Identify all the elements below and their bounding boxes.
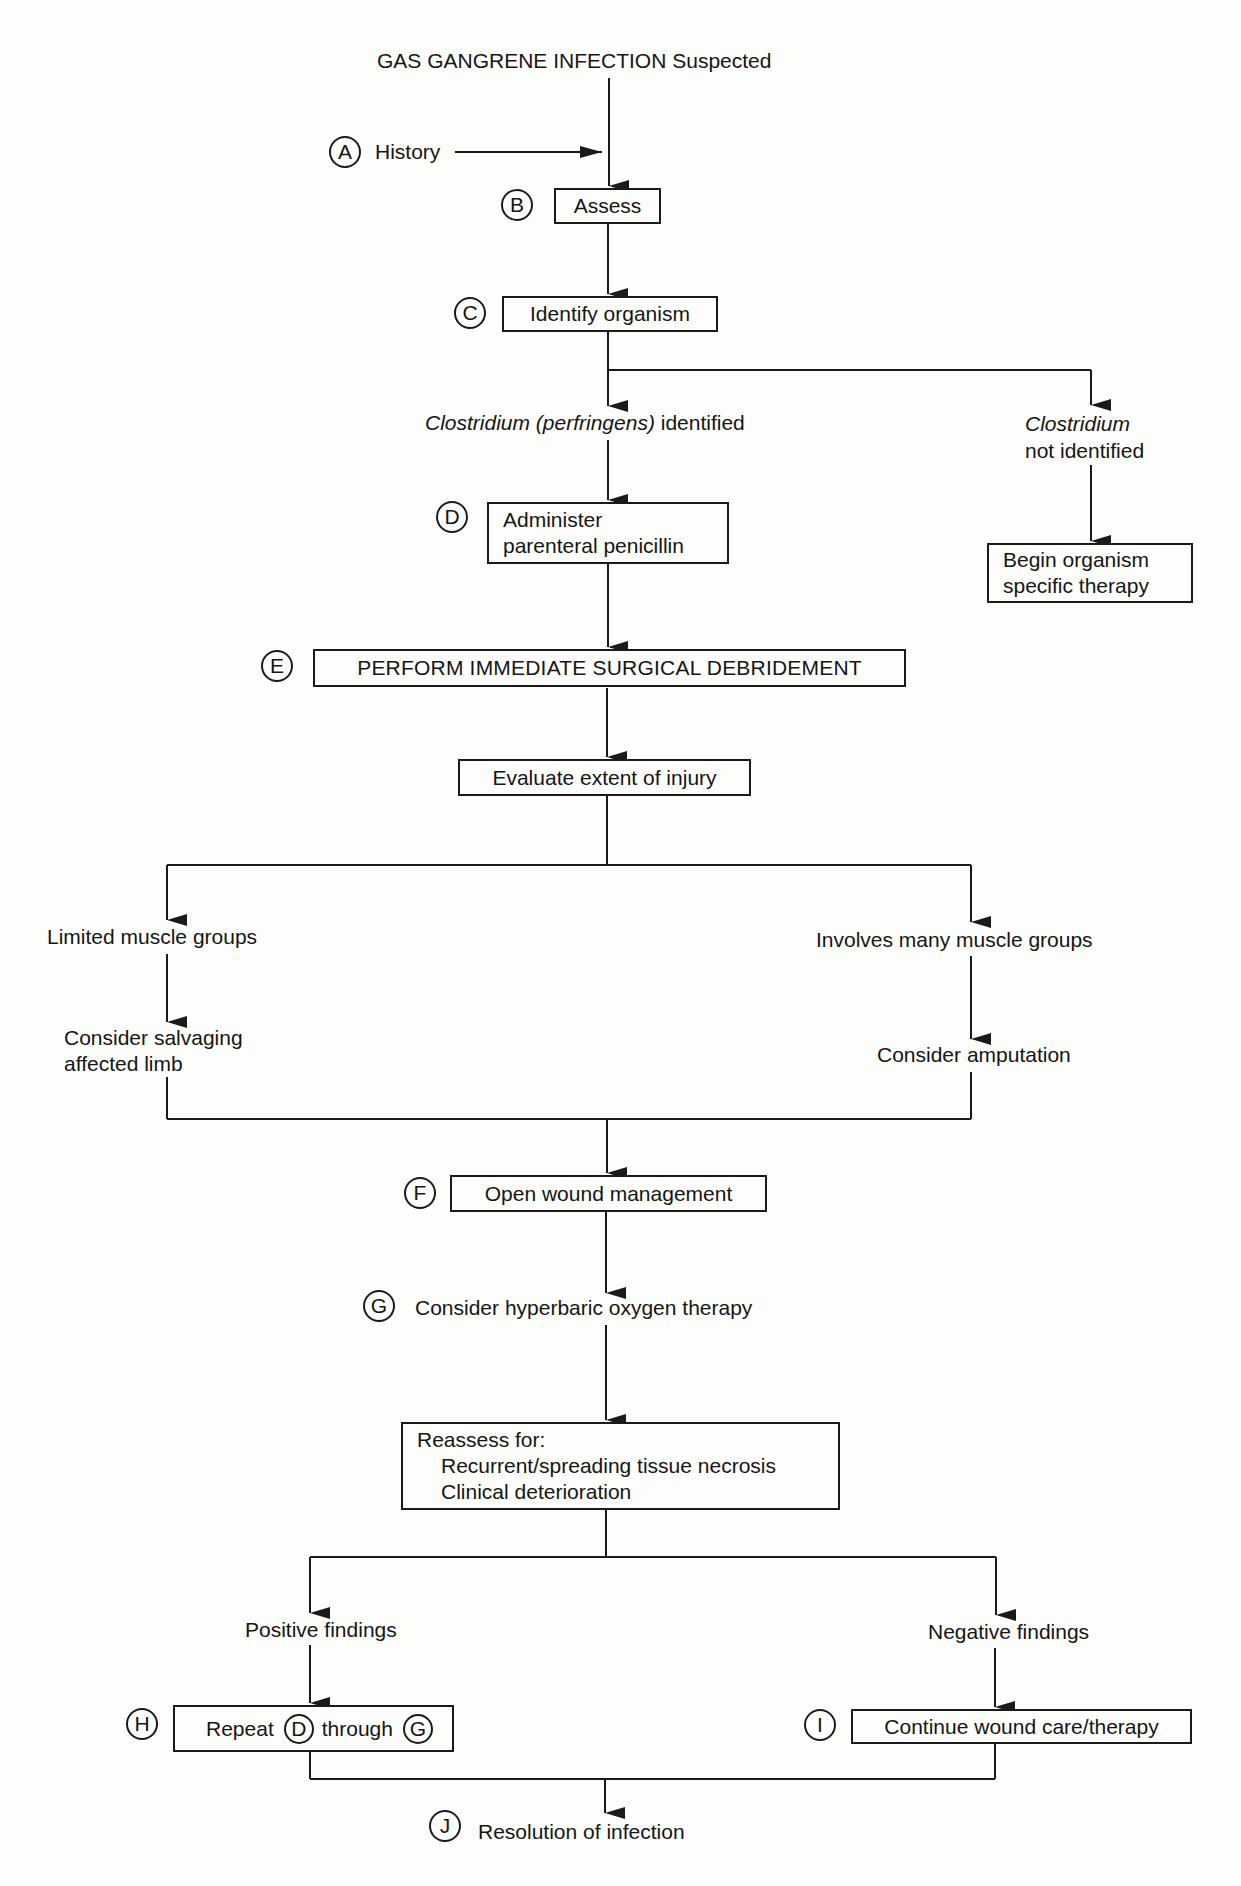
organism-therapy-line-2: specific therapy <box>1003 573 1149 599</box>
administer-line-2: parenteral penicillin <box>503 533 684 559</box>
evaluate-injury-box: Evaluate extent of injury <box>458 759 751 796</box>
resolution-label: Resolution of infection <box>478 1819 685 1845</box>
organism-therapy-line-1: Begin organism <box>1003 547 1149 573</box>
continue-wound-care-label: Continue wound care/therapy <box>884 1714 1158 1740</box>
surgical-debridement-box: PERFORM IMMEDIATE SURGICAL DEBRIDEMENT <box>313 649 906 687</box>
clostridium-not-identified-rest: not identified <box>1025 439 1144 462</box>
identify-organism-label: Identify organism <box>530 301 690 327</box>
organism-specific-therapy-box: Begin organism specific therapy <box>987 543 1193 603</box>
step-marker-h-icon: H <box>126 1708 158 1740</box>
step-marker-c-icon: C <box>454 297 486 329</box>
step-marker-e-icon: E <box>261 650 293 682</box>
step-marker-i-icon: I <box>804 1709 836 1741</box>
surgical-debridement-label: PERFORM IMMEDIATE SURGICAL DEBRIDEMENT <box>357 655 862 681</box>
repeat-label: Repeat <box>206 1716 274 1742</box>
consider-amputation-label: Consider amputation <box>877 1042 1071 1068</box>
clostridium-identified-label: Clostridium (perfringens) identified <box>425 410 745 436</box>
salvage-line-1: Consider salvaging <box>64 1026 243 1049</box>
step-marker-d-icon: D <box>436 501 468 533</box>
step-marker-a-icon: A <box>329 136 361 168</box>
flowchart-title: GAS GANGRENE INFECTION Suspected <box>377 48 771 74</box>
negative-findings-label: Negative findings <box>928 1619 1089 1645</box>
salvage-line-2: affected limb <box>64 1052 183 1075</box>
administer-penicillin-box: Administer parenteral penicillin <box>487 502 729 564</box>
step-marker-g-icon: G <box>363 1290 395 1322</box>
reassess-line-2: Recurrent/spreading tissue necrosis <box>417 1453 776 1479</box>
involves-many-muscle-groups-label: Involves many muscle groups <box>816 927 1093 953</box>
open-wound-management-label: Open wound management <box>485 1181 733 1207</box>
ref-marker-g-icon: G <box>403 1714 433 1744</box>
clostridium-identified-rest: identified <box>655 411 745 434</box>
consider-salvaging-label: Consider salvaging affected limb <box>64 1025 243 1077</box>
reassess-line-1: Reassess for: <box>417 1427 545 1453</box>
reassess-box: Reassess for: Recurrent/spreading tissue… <box>401 1422 840 1510</box>
assess-box: Assess <box>554 188 661 224</box>
clostridium-identified-italic: Clostridium (perfringens) <box>425 411 655 434</box>
identify-organism-box: Identify organism <box>502 296 718 332</box>
evaluate-injury-label: Evaluate extent of injury <box>492 765 716 791</box>
step-marker-b-icon: B <box>501 189 533 221</box>
through-label: through <box>322 1716 393 1742</box>
limited-muscle-groups-label: Limited muscle groups <box>47 924 257 950</box>
clostridium-not-identified-label: Clostridium not identified <box>1025 410 1144 464</box>
ref-marker-d-icon: D <box>284 1714 314 1744</box>
assess-label: Assess <box>574 193 642 219</box>
reassess-line-3: Clinical deterioration <box>417 1479 631 1505</box>
step-marker-f-icon: F <box>404 1177 436 1209</box>
positive-findings-label: Positive findings <box>245 1617 397 1643</box>
repeat-steps-box: Repeat D through G <box>173 1705 454 1752</box>
hyperbaric-oxygen-label: Consider hyperbaric oxygen therapy <box>415 1295 752 1321</box>
administer-line-1: Administer <box>503 507 602 533</box>
step-marker-j-icon: J <box>429 1810 461 1842</box>
clostridium-not-identified-italic: Clostridium <box>1025 412 1130 435</box>
continue-wound-care-box: Continue wound care/therapy <box>851 1709 1192 1744</box>
open-wound-management-box: Open wound management <box>450 1175 767 1212</box>
history-label: History <box>375 139 440 165</box>
